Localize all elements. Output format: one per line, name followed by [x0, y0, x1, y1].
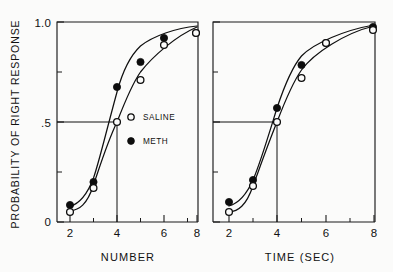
left-point-meth-5 [137, 58, 144, 65]
right-point-saline-8 [370, 27, 377, 34]
right-point-saline-5 [298, 75, 305, 82]
left-xlabel-2: 2 [67, 227, 74, 239]
left-point-meth-6 [160, 34, 167, 41]
left-point-saline-2 [67, 209, 74, 216]
left-point-saline-4 [114, 119, 121, 126]
panel-right-time: 2 4 6 8 TIME (SEC) [213, 22, 377, 263]
chart-svg: PROBABILITY OF RIGHT RESPONSE 1.0 .5 0 [0, 0, 393, 272]
y-tick-label-05: .5 [41, 117, 51, 129]
left-xlabel-4: 4 [114, 227, 121, 239]
left-point-saline-5 [137, 77, 144, 84]
right-point-saline-6 [323, 40, 330, 47]
legend-saline-label: SALINE [143, 113, 175, 122]
figure-container: PROBABILITY OF RIGHT RESPONSE 1.0 .5 0 [0, 0, 393, 272]
right-xlabel-8: 8 [371, 227, 378, 239]
left-point-saline-3 [90, 185, 97, 192]
left-xlabel-8: 8 [194, 227, 201, 239]
legend-meth-marker-icon [128, 138, 135, 145]
left-point-meth-4 [113, 83, 120, 90]
left-reference-lines [57, 122, 117, 222]
legend: SALINE METH [128, 113, 176, 146]
panel-left-number: 2 4 6 8 NUMBER SALINE METH [57, 22, 200, 263]
left-xlabel-6: 6 [161, 227, 168, 239]
right-point-saline-2 [226, 209, 233, 216]
right-xlabel-4: 4 [274, 227, 281, 239]
y-axis-title: PROBABILITY OF RIGHT RESPONSE [9, 20, 21, 229]
right-point-meth-4 [273, 104, 280, 111]
right-xlabel-6: 6 [323, 227, 330, 239]
right-point-saline-3 [250, 183, 257, 190]
left-point-saline-8 [193, 30, 200, 37]
left-point-meth-2 [66, 201, 73, 208]
legend-meth-label: METH [143, 137, 168, 146]
left-x-axis-title: NUMBER [101, 251, 155, 263]
left-point-saline-6 [161, 42, 168, 49]
legend-saline-marker-icon [128, 114, 134, 120]
right-xlabel-2: 2 [226, 227, 233, 239]
right-x-axis-title: TIME (SEC) [265, 251, 335, 263]
right-point-meth-2 [225, 198, 232, 205]
y-tick-label-1: 1.0 [34, 17, 51, 29]
y-tick-label-0: 0 [44, 216, 51, 228]
right-point-saline-4 [274, 119, 281, 126]
right-point-meth-5 [298, 61, 305, 68]
